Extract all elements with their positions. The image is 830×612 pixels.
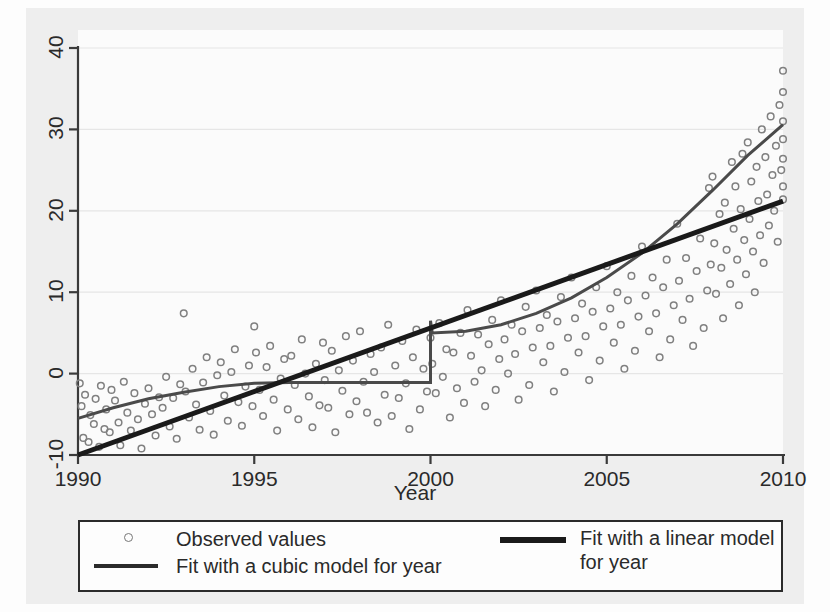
- x-tick-marks: [78, 455, 783, 464]
- x-axis-title: Year: [0, 481, 830, 505]
- y-tick-marks: [69, 48, 78, 455]
- y-tick-label: 10: [44, 256, 68, 326]
- y-tick-label: 30: [44, 93, 68, 163]
- legend-label-observed: Observed values: [176, 527, 326, 551]
- y-tick-label: 0: [44, 338, 68, 408]
- chart-legend: Observed values Fit with a cubic model f…: [78, 520, 783, 592]
- legend-observed-marker-icon: [124, 533, 133, 542]
- y-tick-label: 40: [44, 12, 68, 82]
- linear-fit-line: [78, 201, 783, 455]
- legend-label-linear: Fit with a linear model for year: [580, 526, 780, 574]
- y-tick-label: 20: [44, 175, 68, 245]
- chart-figure: 403020100-10 19901995200020052010 Year O…: [0, 0, 830, 612]
- scatter-points: [76, 67, 786, 451]
- legend-label-cubic: Fit with a cubic model for year: [176, 554, 442, 578]
- legend-linear-line-swatch: [500, 537, 566, 543]
- legend-cubic-line-swatch: [94, 564, 158, 568]
- cubic-fit-line: [78, 125, 783, 419]
